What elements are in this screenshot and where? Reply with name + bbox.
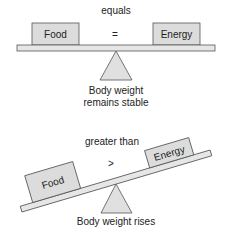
fulcrum-triangle — [100, 51, 132, 80]
energy-balance-diagram: equals Food = Energy Body weight remains… — [0, 0, 226, 240]
greater-than-operator: > — [108, 158, 114, 169]
caption-line-1: Body weight — [89, 85, 144, 96]
caption-line-2: remains stable — [83, 97, 148, 108]
equals-operator: = — [112, 29, 118, 40]
fulcrum-triangle-bottom — [101, 184, 132, 213]
greater-than-label: greater than — [85, 136, 139, 147]
caption-bottom: Body weight rises — [77, 216, 155, 227]
balanced-scale: equals Food = Energy Body weight remains… — [17, 5, 215, 108]
energy-box-label: Energy — [161, 29, 193, 40]
level-beam — [17, 45, 215, 51]
tilted-scale: greater than > Food Energy Body weight r… — [12, 123, 212, 227]
equals-label: equals — [101, 5, 130, 16]
food-box-label: Food — [44, 29, 67, 40]
